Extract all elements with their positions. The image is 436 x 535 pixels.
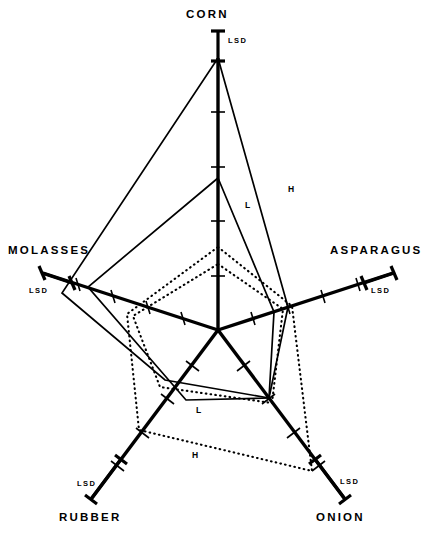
radar-chart-canvas [0, 0, 436, 535]
series-annotation-h-solid: H [288, 184, 294, 194]
axis-label-molasses: MOLASSES [8, 244, 90, 256]
axis-label-onion: ONION [316, 511, 365, 523]
lsd-label-rubber: LSD [77, 479, 96, 488]
series-l-dotted-polygon [133, 264, 283, 403]
radar-chart-figure: CORN ASPARAGUS ONION RUBBER MOLASSES LSD… [0, 0, 436, 535]
series-annotation-l-solid: L [245, 200, 250, 210]
series-annotation-h-dotted: H [192, 450, 198, 460]
axis-label-asparagus: ASPARAGUS [330, 244, 422, 256]
axis-label-rubber: RUBBER [59, 511, 121, 523]
axis-spokes [43, 58, 393, 498]
lsd-label-molasses: LSD [29, 286, 48, 295]
series-h-solid-polygon [62, 58, 288, 398]
series-annotation-l-dotted: L [196, 405, 201, 415]
lsd-label-corn: LSD [228, 36, 247, 45]
lsd-label-onion: LSD [340, 477, 359, 486]
lsd-label-asparagus: LSD [371, 286, 390, 295]
axis-label-corn: CORN [186, 8, 229, 20]
